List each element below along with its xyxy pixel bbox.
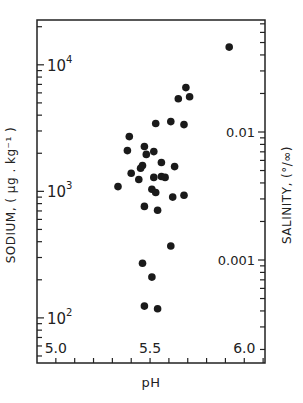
data-point bbox=[141, 302, 149, 310]
data-point bbox=[150, 174, 158, 182]
data-point bbox=[150, 148, 158, 156]
x-axis-ticks: 5.05.56.0 bbox=[45, 340, 263, 363]
data-point bbox=[180, 192, 188, 200]
data-point bbox=[225, 43, 233, 51]
y-right-tick-label: 0.01 bbox=[226, 125, 255, 140]
data-point bbox=[141, 203, 149, 211]
y-axis-label-right: SALINITY, (°/∞) bbox=[280, 146, 294, 244]
data-point bbox=[124, 147, 132, 155]
data-point bbox=[141, 143, 149, 151]
y-axis-right-ticks: 0.0010.01 bbox=[218, 24, 265, 350]
data-point bbox=[182, 84, 190, 92]
x-tick-label: 5.5 bbox=[139, 340, 161, 356]
data-point bbox=[175, 95, 183, 103]
x-axis-label: pH bbox=[141, 375, 160, 390]
data-point bbox=[127, 169, 135, 177]
data-point bbox=[154, 206, 162, 214]
data-point bbox=[154, 305, 162, 313]
data-point bbox=[167, 118, 175, 126]
data-point bbox=[186, 93, 194, 101]
data-point bbox=[171, 163, 179, 171]
y-tick-label: 104 bbox=[47, 54, 72, 75]
data-point bbox=[137, 165, 145, 173]
y-tick-label: 103 bbox=[47, 180, 72, 201]
data-point bbox=[148, 273, 156, 281]
data-point bbox=[158, 159, 166, 167]
x-tick-label: 5.0 bbox=[45, 340, 67, 356]
data-point bbox=[152, 120, 160, 128]
scatter-chart: 102103104 0.0010.01 5.05.56.0 pH SODIUM,… bbox=[0, 0, 303, 403]
data-point bbox=[169, 193, 177, 201]
data-point bbox=[161, 174, 169, 182]
x-tick-label: 6.0 bbox=[233, 340, 255, 356]
data-point bbox=[139, 260, 147, 268]
data-point bbox=[167, 242, 175, 250]
y-axis-left-ticks: 102103104 bbox=[37, 27, 72, 356]
data-point bbox=[135, 176, 143, 184]
y-axis-label-left: SODIUM, ( µg . kg⁻¹ ) bbox=[4, 127, 18, 264]
data-point bbox=[126, 133, 134, 141]
data-point bbox=[143, 151, 151, 159]
data-points bbox=[114, 43, 233, 312]
data-point bbox=[180, 121, 188, 129]
data-point bbox=[152, 189, 160, 197]
y-tick-label: 102 bbox=[47, 307, 72, 328]
data-point bbox=[114, 183, 122, 191]
y-right-tick-label: 0.001 bbox=[218, 253, 255, 268]
